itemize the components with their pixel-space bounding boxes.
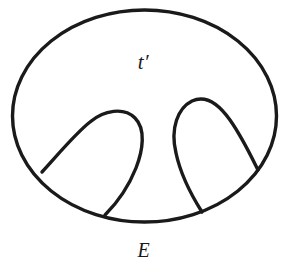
right-tongue-path bbox=[174, 99, 258, 212]
figure-container: t′ E bbox=[0, 0, 287, 270]
outer-ellipse-path bbox=[13, 10, 277, 222]
left-tongue-path bbox=[42, 111, 142, 215]
figure-caption-label: E bbox=[0, 240, 287, 260]
figure-canvas bbox=[0, 0, 287, 270]
interior-region-label: t′ bbox=[0, 52, 287, 73]
